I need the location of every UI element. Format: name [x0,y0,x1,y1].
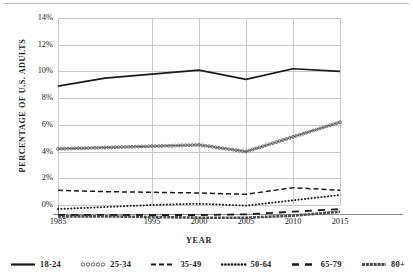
y-axis-tick-label: 14% [38,14,53,22]
chart-figure: PERCENTAGE OF U.S. ADULTS 14%12%10%8%6%4… [0,0,413,276]
legend-swatch-icon [80,260,106,269]
legend-label: 25-34 [110,260,131,269]
series-lines [58,18,340,205]
chart-legend: 18-2425-3435-4950-6465-7980+ [10,256,405,272]
series-markers-25-34 [57,121,342,153]
gridline-horizontal [58,205,340,206]
y-axis-tick-label: 4% [42,147,53,155]
top-divider-rule [4,3,409,4]
legend-item-50-64[interactable]: 50-64 [221,260,272,269]
x-axis-tick-label: 1985 [50,218,67,226]
legend-item-25-34[interactable]: 25-34 [80,260,131,269]
legend-label: 80+ [391,260,405,269]
y-axis-tick-label: 8% [42,94,53,102]
legend-item-80plus[interactable]: 80+ [361,260,405,269]
y-axis-title: PERCENTAGE OF U.S. ADULTS [18,6,27,206]
legend-swatch-icon [291,260,317,269]
legend-label: 18-24 [40,260,61,269]
series-line-35-49 [58,188,340,195]
legend-item-35-49[interactable]: 35-49 [150,260,201,269]
series-line-18-24 [58,69,340,86]
legend-item-18-24[interactable]: 18-24 [10,260,61,269]
x-axis-tick-label: 2010 [285,218,302,226]
legend-label: 50-64 [251,260,272,269]
legend-swatch-icon [221,260,247,269]
x-axis-title: YEAR [58,236,340,245]
legend-swatch-icon [150,260,176,269]
legend-label: 65-79 [321,260,342,269]
y-axis-tick-label: 2% [42,174,53,182]
y-axis-tick-label: 0% [42,201,53,209]
y-axis-tick-label: 10% [38,67,53,75]
series-line-50-64 [58,195,340,209]
legend-swatch-icon [10,260,36,269]
x-axis-tick-label: 2015 [332,218,349,226]
legend-item-65-79[interactable]: 65-79 [291,260,342,269]
legend-label: 35-49 [180,260,201,269]
x-axis-tick-label: 1995 [144,218,161,226]
y-axis-tick-label: 12% [38,41,53,49]
legend-swatch-icon [361,260,387,269]
plot-area: 14%12%10%8%6%4%2%0% 19851995200020052010… [58,18,340,205]
x-axis-tick-label: 2005 [238,218,255,226]
y-axis-tick-label: 6% [42,121,53,129]
x-axis-tick-label: 2000 [191,218,208,226]
gridline-vertical [340,18,341,205]
